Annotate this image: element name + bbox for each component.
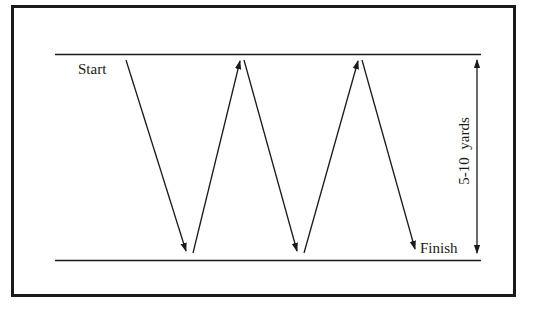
finish-label: Finish — [420, 240, 458, 256]
zigzag-leg-5-arrow-icon — [362, 60, 415, 249]
distance-label: 5-10 yards — [456, 117, 472, 185]
start-label: Start — [78, 61, 107, 77]
zigzag-leg-1-arrow-icon — [126, 60, 186, 251]
zigzag-leg-3-arrow-icon — [244, 60, 297, 251]
zigzag-leg-2-arrow-icon — [193, 61, 240, 253]
zigzag-drill-diagram: Start Finish 5-10 yards — [0, 0, 545, 310]
zigzag-leg-4-arrow-icon — [304, 61, 358, 253]
